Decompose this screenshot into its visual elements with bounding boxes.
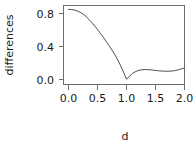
x-tick-label: 2.0	[176, 92, 194, 105]
plot-canvas: 0.8 0.4 0.0 0.0 0.5 1.0 1.5 2.0 d differ…	[0, 0, 196, 147]
y-tick-label: 0.4	[37, 41, 55, 54]
x-tick-label: 1.0	[118, 92, 136, 105]
y-axis-title: differences	[3, 14, 16, 75]
x-tick-label: 0.0	[60, 92, 78, 105]
chart-figure: 0.8 0.4 0.0 0.0 0.5 1.0 1.5 2.0 d differ…	[0, 0, 196, 147]
y-tick-label: 0.0	[37, 74, 55, 87]
x-tick-label: 0.5	[89, 92, 107, 105]
x-tick-label: 1.5	[147, 92, 165, 105]
figure-background	[0, 0, 196, 147]
y-tick-label: 0.8	[37, 8, 55, 21]
x-axis-title: d	[122, 130, 129, 143]
